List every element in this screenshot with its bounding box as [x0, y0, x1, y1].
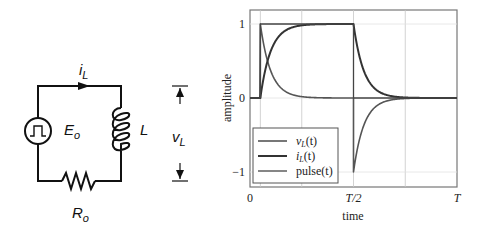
legend-entry-label: iL(t)	[296, 149, 315, 164]
legend-entry-label: vL(t)	[296, 134, 317, 149]
pulse-source-icon	[25, 118, 51, 144]
inductor-icon	[113, 108, 130, 157]
x-tick-label: T	[454, 191, 462, 205]
right-bottom-wire	[95, 157, 121, 181]
arrow-down-icon	[176, 170, 184, 179]
figure: iL Eo L vL Ro vL(t)iL(t)pulse(t) 10−1 0T…	[0, 0, 480, 230]
inductor-label: L	[140, 121, 148, 138]
x-tick-labels: 0T/2T	[247, 191, 462, 205]
y-tick-label: 0	[239, 91, 245, 105]
top-wire	[38, 86, 121, 118]
left-wire	[38, 144, 62, 181]
legend: vL(t)iL(t)pulse(t)	[253, 128, 338, 183]
source-label: Eo	[64, 121, 80, 141]
x-axis-label: time	[342, 209, 363, 223]
current-label: iL	[79, 61, 88, 81]
legend-entry-label: pulse(t)	[296, 164, 333, 178]
y-axis-label: amplitude	[220, 74, 234, 122]
circuit-diagram	[25, 82, 188, 189]
arrow-up-icon	[176, 88, 184, 97]
x-tick-label: 0	[247, 191, 253, 205]
y-tick-label: 1	[239, 17, 245, 31]
voltage-label: vL	[172, 128, 186, 148]
current-arrow-icon	[78, 82, 90, 90]
pulse-glyph-icon	[30, 126, 46, 136]
y-tick-label: −1	[232, 165, 245, 179]
resistor-icon	[62, 173, 95, 189]
x-tick-label: T/2	[345, 191, 361, 205]
chart: vL(t)iL(t)pulse(t) 10−1 0T/2T time ampli…	[220, 10, 462, 223]
resistor-label: Ro	[72, 204, 89, 224]
y-tick-labels: 10−1	[232, 17, 245, 179]
